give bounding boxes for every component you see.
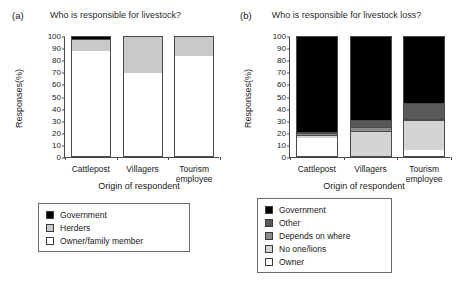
x-axis-tick-label-line: Cattlepost bbox=[298, 164, 336, 174]
panel-a-y-axis-label: Responses(%) bbox=[14, 69, 24, 128]
panel-a-plot-area: 0102030405060708090100CattlepostVillager… bbox=[64, 37, 219, 158]
x-axis-tick-mark bbox=[220, 157, 221, 160]
y-axis-tick-mark bbox=[62, 121, 65, 122]
y-axis-tick-mark bbox=[287, 121, 290, 122]
panel-b-plot-area: 0102030405060708090100CattlepostVillager… bbox=[289, 37, 450, 158]
legend-swatch-icon bbox=[265, 232, 273, 240]
y-axis-tick-mark bbox=[62, 109, 65, 110]
bar-segment-government bbox=[72, 36, 110, 39]
legend-swatch-icon bbox=[265, 219, 273, 227]
y-axis-tick-mark bbox=[287, 73, 290, 74]
x-axis-tick-label-line: Tourism bbox=[406, 164, 443, 174]
bar-segment-depends-on-where bbox=[297, 133, 337, 135]
y-axis-tick-mark bbox=[62, 133, 65, 134]
bar-segment-no-one-lions bbox=[404, 120, 444, 150]
y-axis-tick-mark bbox=[287, 61, 290, 62]
legend-item[interactable]: Depends on where bbox=[265, 229, 381, 242]
bar-segment-owner-family-member bbox=[124, 73, 162, 156]
legend-item-label: Other bbox=[279, 218, 300, 228]
stacked-bar[interactable] bbox=[296, 36, 338, 157]
bar-segment-owner bbox=[297, 138, 337, 156]
bar-segment-herders bbox=[72, 39, 110, 51]
y-axis-tick-mark bbox=[287, 97, 290, 98]
bar-segment-no-one-lions bbox=[297, 135, 337, 137]
y-axis-tick-mark bbox=[287, 145, 290, 146]
bar-segment-no-one-lions bbox=[351, 131, 391, 156]
bar-segment-other bbox=[297, 132, 337, 133]
legend-item[interactable]: Other bbox=[265, 216, 381, 229]
stacked-bar[interactable] bbox=[71, 36, 111, 157]
legend-swatch-icon bbox=[265, 245, 273, 253]
legend-swatch-icon bbox=[265, 206, 273, 214]
panel-a-legend: GovernmentHerdersOwner/family member bbox=[38, 203, 190, 252]
x-axis-tick-mark bbox=[397, 157, 398, 160]
legend-item[interactable]: Owner/family member bbox=[46, 234, 179, 247]
x-axis-tick-label-line: Villagers bbox=[126, 164, 158, 174]
y-axis-tick-mark bbox=[62, 73, 65, 74]
x-axis-tick-label: Villagers bbox=[126, 164, 158, 174]
legend-item-label: No one/lions bbox=[279, 244, 326, 254]
panel-a: (a) Who is responsible for livestock? Re… bbox=[0, 0, 231, 286]
x-axis-tick-mark bbox=[117, 157, 118, 160]
x-axis-tick-label-line: Cattlepost bbox=[72, 164, 110, 174]
legend-item-label: Owner/family member bbox=[60, 236, 143, 246]
legend-item[interactable]: Herders bbox=[46, 221, 179, 234]
y-axis-tick-mark bbox=[287, 109, 290, 110]
legend-item[interactable]: No one/lions bbox=[265, 242, 381, 255]
stacked-bar[interactable] bbox=[403, 36, 445, 157]
legend-swatch-icon bbox=[46, 237, 54, 245]
bar-segment-government bbox=[297, 36, 337, 132]
bar-segment-other bbox=[404, 103, 444, 119]
y-axis-tick-mark bbox=[287, 133, 290, 134]
legend-swatch-icon bbox=[46, 224, 54, 232]
x-axis-tick-mark bbox=[65, 157, 66, 160]
x-axis-tick-label: Cattlepost bbox=[72, 164, 110, 174]
y-axis-tick-mark bbox=[62, 37, 65, 38]
y-axis-tick-mark bbox=[62, 49, 65, 50]
x-axis-tick-label: Cattlepost bbox=[298, 164, 336, 174]
panel-a-x-axis-label: Origin of respondent bbox=[44, 181, 234, 191]
panel-b-title: Who is responsible for livestock loss? bbox=[231, 10, 462, 20]
bar-segment-herders bbox=[124, 36, 162, 73]
panel-b-y-axis-label: Responses(%) bbox=[243, 69, 253, 128]
x-axis-tick-mark bbox=[451, 157, 452, 160]
x-axis-tick-label-line: Tourism bbox=[176, 164, 213, 174]
panel-a-title: Who is responsible for livestock? bbox=[0, 10, 231, 20]
stacked-bar[interactable] bbox=[174, 36, 214, 157]
legend-item-label: Herders bbox=[60, 223, 90, 233]
bar-segment-other bbox=[351, 120, 391, 127]
bar-segment-owner bbox=[404, 150, 444, 156]
panel-b-x-axis-label: Origin of respondent bbox=[269, 181, 459, 191]
stacked-bar[interactable] bbox=[123, 36, 163, 157]
y-axis-tick-mark bbox=[62, 145, 65, 146]
y-axis-tick-mark bbox=[62, 61, 65, 62]
legend-item[interactable]: Owner bbox=[265, 255, 381, 268]
bar-segment-government bbox=[404, 36, 444, 103]
legend-swatch-icon bbox=[46, 211, 54, 219]
legend-item-label: Owner bbox=[279, 257, 304, 267]
y-axis-tick-mark bbox=[62, 85, 65, 86]
x-axis-tick-label: Villagers bbox=[354, 164, 386, 174]
panel-b-legend: GovernmentOtherDepends on whereNo one/li… bbox=[257, 198, 392, 273]
legend-item[interactable]: Government bbox=[46, 208, 179, 221]
y-axis-tick-mark bbox=[62, 97, 65, 98]
bar-segment-herders bbox=[175, 36, 213, 56]
legend-swatch-icon bbox=[265, 258, 273, 266]
stacked-bar[interactable] bbox=[350, 36, 392, 157]
y-axis-tick-mark bbox=[287, 37, 290, 38]
legend-item-label: Depends on where bbox=[279, 231, 350, 241]
x-axis-tick-mark bbox=[290, 157, 291, 160]
x-axis-tick-mark bbox=[344, 157, 345, 160]
y-axis-tick-mark bbox=[287, 85, 290, 86]
panel-b: (b) Who is responsible for livestock los… bbox=[231, 0, 462, 286]
y-axis-tick-mark bbox=[287, 49, 290, 50]
bar-segment-depends-on-where bbox=[351, 127, 391, 131]
bar-segment-owner-family-member bbox=[72, 51, 110, 156]
x-axis-tick-mark bbox=[168, 157, 169, 160]
legend-item-label: Government bbox=[60, 210, 107, 220]
bar-segment-depends-on-where bbox=[404, 119, 444, 120]
x-axis-tick-label-line: Villagers bbox=[354, 164, 386, 174]
legend-item-label: Government bbox=[279, 205, 326, 215]
legend-item[interactable]: Government bbox=[265, 203, 381, 216]
bar-segment-owner-family-member bbox=[175, 56, 213, 156]
